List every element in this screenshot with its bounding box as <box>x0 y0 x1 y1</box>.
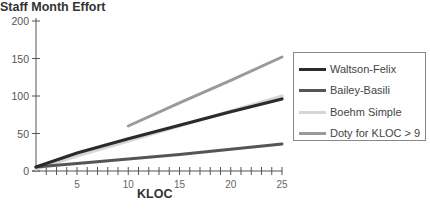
legend-label: Boehm Simple <box>330 106 402 118</box>
y-tick-label: 200 <box>11 15 29 27</box>
y-tick-label: 150 <box>11 53 29 65</box>
legend-item-boehm-simple: Boehm Simple <box>299 104 402 120</box>
legend-item-bailey-basili: Bailey-Basili <box>299 82 390 98</box>
x-tick-label: 20 <box>225 179 237 190</box>
legend-swatch <box>299 111 326 114</box>
x-tick-label: 10 <box>123 179 135 190</box>
legend-label: Doty for KLOC > 9 <box>330 127 420 139</box>
series-line-doty-for-kloc-9 <box>128 57 282 126</box>
legend-item-doty: Doty for KLOC > 9 <box>299 125 420 141</box>
x-axis-label: KLOC <box>137 187 172 201</box>
legend-swatch <box>299 132 326 135</box>
x-tick-label: 5 <box>74 179 80 190</box>
y-tick-label: 100 <box>11 90 29 102</box>
x-tick-label: 25 <box>276 179 288 190</box>
legend-label: Bailey-Basili <box>330 84 390 96</box>
legend-label: Waltson-Felix <box>330 63 396 75</box>
legend-swatch <box>299 89 326 92</box>
y-tick-label: 0 <box>23 165 29 177</box>
legend-item-waltson-felix: Waltson-Felix <box>299 61 396 77</box>
legend: Waltson-Felix Bailey-Basili Boehm Simple… <box>293 52 426 141</box>
x-tick-label: 15 <box>174 179 186 190</box>
y-tick-label: 50 <box>17 128 29 140</box>
legend-swatch <box>299 68 326 71</box>
